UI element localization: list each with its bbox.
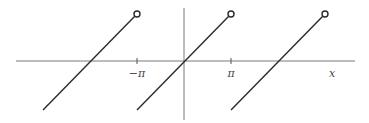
open-endpoint-1 — [134, 11, 140, 17]
sawtooth-segment-1 — [43, 17, 135, 111]
tick-label-neg-pi: −π — [129, 67, 146, 80]
sawtooth-plot: −π π x — [0, 0, 369, 123]
tick-label-pi: π — [226, 67, 235, 80]
sawtooth-segment-2 — [137, 17, 229, 111]
open-endpoint-3 — [322, 11, 328, 17]
open-endpoint-2 — [228, 11, 234, 17]
x-axis-label: x — [329, 67, 336, 80]
sawtooth-segment-3 — [231, 17, 323, 111]
